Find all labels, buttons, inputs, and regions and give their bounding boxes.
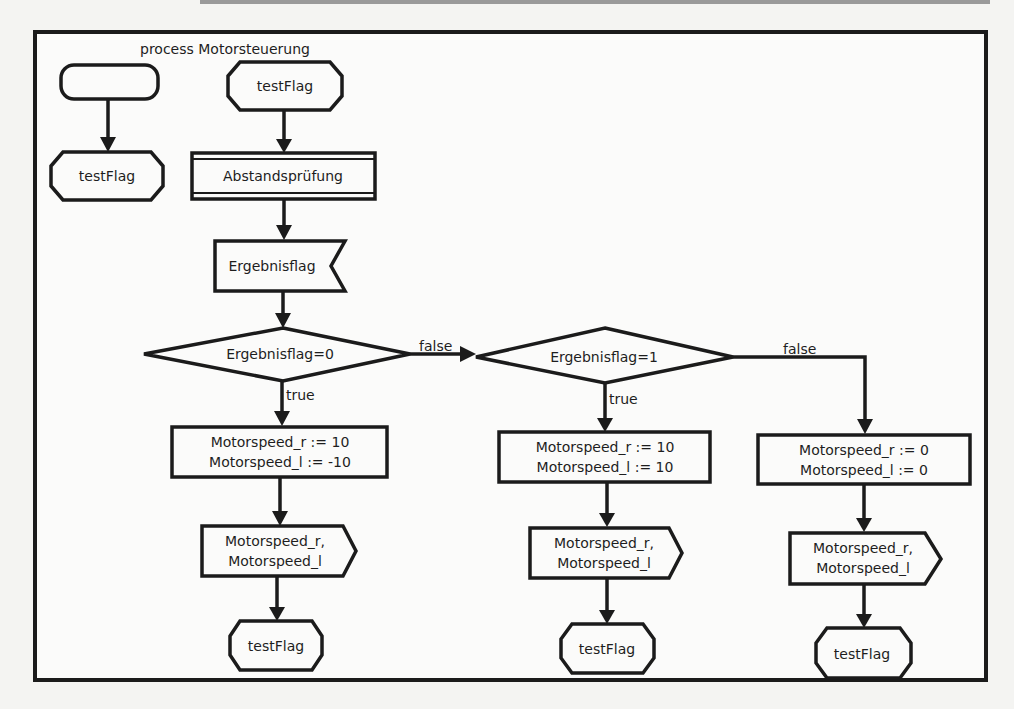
end-node-left[interactable]: testFlag — [230, 621, 322, 670]
svg-text:Motorspeed_r,: Motorspeed_r, — [813, 540, 913, 556]
send-node-right[interactable]: Motorspeed_r, Motorspeed_l — [790, 533, 941, 584]
edge-label-false-1: false — [419, 338, 452, 354]
svg-text:Motorspeed_l: Motorspeed_l — [557, 555, 651, 571]
flowchart: process Motorsteuerung testFlag testFlag… — [0, 0, 1014, 709]
svg-text:Motorspeed_l: Motorspeed_l — [228, 553, 322, 569]
svg-text:testFlag: testFlag — [579, 641, 635, 657]
legend-end-node[interactable]: testFlag — [51, 152, 163, 200]
task-node-right[interactable]: Motorspeed_r := 0 Motorspeed_l := 0 — [758, 435, 970, 484]
task-node-middle[interactable]: Motorspeed_r := 10 Motorspeed_l := 10 — [499, 432, 710, 482]
process-title: process Motorsteuerung — [140, 41, 310, 57]
svg-text:Motorspeed_r := 10: Motorspeed_r := 10 — [536, 439, 675, 455]
svg-text:testFlag: testFlag — [79, 168, 135, 184]
start-node-testflag[interactable]: testFlag — [228, 62, 342, 110]
end-node-middle[interactable]: testFlag — [561, 624, 654, 673]
send-node-middle[interactable]: Motorspeed_r, Motorspeed_l — [530, 528, 682, 578]
edge-label-true-1: true — [286, 387, 315, 403]
task-node-left[interactable]: Motorspeed_r := 10 Motorspeed_l := -10 — [172, 427, 387, 477]
svg-text:Ergebnisflag=0: Ergebnisflag=0 — [226, 346, 334, 362]
send-node-left[interactable]: Motorspeed_r, Motorspeed_l — [202, 526, 356, 576]
svg-text:Motorspeed_r,: Motorspeed_r, — [225, 533, 325, 549]
end-node-right[interactable]: testFlag — [816, 628, 911, 678]
svg-text:Motorspeed_l: Motorspeed_l — [816, 560, 910, 576]
svg-text:Motorspeed_l := -10: Motorspeed_l := -10 — [209, 454, 351, 470]
svg-text:Ergebnisflag: Ergebnisflag — [228, 258, 315, 274]
svg-text:testFlag: testFlag — [834, 646, 890, 662]
svg-text:Motorspeed_r := 10: Motorspeed_r := 10 — [211, 434, 350, 450]
legend-start-node[interactable] — [61, 65, 158, 99]
edge-label-true-2: true — [609, 391, 638, 407]
svg-text:Ergebnisflag=1: Ergebnisflag=1 — [550, 349, 658, 365]
svg-text:Motorspeed_l := 10: Motorspeed_l := 10 — [537, 459, 674, 475]
procedure-node-abstandspruefung[interactable]: Abstandsprüfung — [192, 153, 375, 199]
svg-text:Motorspeed_r := 0: Motorspeed_r := 0 — [799, 442, 929, 458]
receive-node-ergebnisflag[interactable]: Ergebnisflag — [215, 241, 345, 291]
edge-label-false-2: false — [783, 341, 816, 357]
svg-text:testFlag: testFlag — [257, 78, 313, 94]
svg-text:Abstandsprüfung: Abstandsprüfung — [223, 168, 343, 184]
svg-text:Motorspeed_r,: Motorspeed_r, — [554, 535, 654, 551]
svg-text:testFlag: testFlag — [248, 638, 304, 654]
svg-text:Motorspeed_l := 0: Motorspeed_l := 0 — [800, 462, 928, 478]
